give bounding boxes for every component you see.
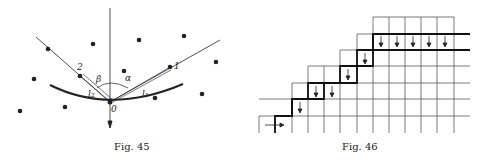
label-l2: l₂ [88,89,95,99]
fig46-caption: Fig. 46 [342,141,378,152]
label-origin: 0 [111,104,117,114]
label-l1: l₁ [142,89,149,99]
label-alpha: α [125,73,131,83]
label-1: 1 [174,61,180,71]
label-2: 2 [77,62,83,72]
fig45-diagram [18,8,220,128]
fig45-caption: Fig. 45 [114,141,150,152]
figures [0,0,486,163]
fig46-boundary [275,34,470,133]
label-beta: β [96,74,101,84]
